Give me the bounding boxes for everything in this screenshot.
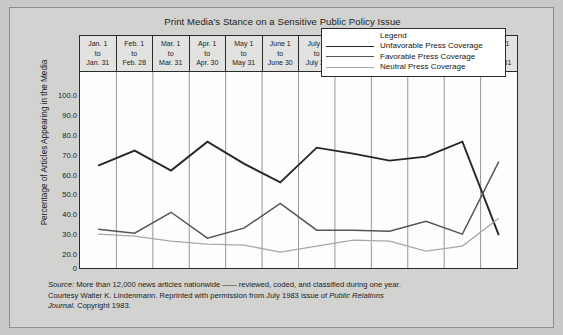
legend-label: Favorable Press Coverage	[380, 52, 475, 63]
month-line-3: Apr. 30	[196, 58, 218, 68]
month-line-1: June 1	[270, 39, 291, 49]
source-note: Source: More than 12,000 news articles n…	[48, 280, 543, 312]
publication-name-part1: Public Relations	[329, 291, 383, 300]
month-line-2: to	[204, 49, 210, 59]
month-column-6: June 1toJune 30	[263, 36, 300, 71]
month-column-2: Feb. 1toFeb. 28	[117, 36, 154, 71]
y-tick-90-0: 90.0	[41, 111, 77, 120]
month-line-2: to	[168, 49, 174, 59]
legend-label: Unfavorable Press Coverage	[380, 41, 483, 52]
month-line-2: to	[95, 49, 101, 59]
month-line-2: to	[131, 49, 137, 59]
source-text-b: reviewed, coded, and classified during o…	[237, 280, 401, 289]
month-line-1: Feb. 1	[124, 39, 144, 49]
y-tick-0: 0	[41, 264, 77, 273]
source-line-2: Courtesy Walter K. Lindenmann. Reprinted…	[48, 291, 543, 302]
source-text-a: More than 12,000 news articles nationwid…	[74, 280, 222, 289]
month-line-1: Mar. 1	[161, 39, 180, 49]
source-line-3: Journal. Copyright 1983.	[48, 301, 543, 312]
month-column-3: Mar. 1toMar. 31	[153, 36, 190, 71]
source-dash: ——	[222, 280, 236, 289]
chart-title: Print Media's Stance on a Sensitive Publ…	[10, 16, 555, 27]
month-line-1: May 1	[234, 39, 253, 49]
month-line-2: to	[314, 49, 320, 59]
legend-line-swatch-icon	[326, 56, 374, 57]
courtesy-text: Courtesy Walter K. Lindenmann. Reprinted…	[48, 291, 329, 300]
month-line-3: Jan. 31	[86, 58, 109, 68]
legend-line-swatch-icon	[326, 46, 374, 47]
legend-entry-unfavorable-press-coverage: Unfavorable Press Coverage	[326, 41, 501, 52]
legend-entry-favorable-press-coverage: Favorable Press Coverage	[326, 52, 501, 63]
plot-svg	[80, 72, 517, 268]
y-tick-70-0: 70.0	[41, 151, 77, 160]
month-line-3: Feb. 28	[122, 58, 146, 68]
legend-line-swatch-icon	[326, 67, 374, 68]
figure-container: Print Media's Stance on a Sensitive Publ…	[9, 7, 554, 328]
copyright-text: Copyright 1983.	[75, 301, 131, 310]
chart-legend: Legend Unfavorable Press CoverageFavorab…	[321, 28, 506, 77]
month-column-5: May 1toMay 31	[226, 36, 263, 71]
month-line-3: Mar. 31	[159, 58, 182, 68]
month-line-2: to	[277, 49, 283, 59]
source-label: Source:	[48, 280, 74, 289]
legend-entries: Unfavorable Press CoverageFavorable Pres…	[326, 41, 501, 73]
y-tick-30-0: 30.0	[41, 230, 77, 239]
y-tick-50-0: 50.0	[41, 190, 77, 199]
source-line-1: Source: More than 12,000 news articles n…	[48, 280, 543, 291]
y-tick-40-0: 40.0	[41, 210, 77, 219]
y-tick-80-0: 80.0	[41, 131, 77, 140]
month-line-1: Apr. 1	[198, 39, 216, 49]
month-line-1: Jan. 1	[88, 39, 107, 49]
publication-name-part2: Journal.	[48, 301, 75, 310]
month-line-2: to	[241, 49, 247, 59]
plot-area	[79, 72, 518, 269]
y-tick-60-0: 60.0	[41, 171, 77, 180]
legend-title: Legend	[380, 31, 501, 41]
legend-entry-neutral-press-coverage: Neutral Press Coverage	[326, 62, 501, 73]
y-tick-20-0: 20.0	[41, 250, 77, 259]
y-tick-100-0: 100.0	[41, 91, 77, 100]
legend-label: Neutral Press Coverage	[380, 62, 465, 73]
month-column-1: Jan. 1toJan. 31	[80, 36, 117, 71]
month-line-3: June 30	[268, 58, 293, 68]
month-column-4: Apr. 1toApr. 30	[190, 36, 227, 71]
month-line-3: May 31	[232, 58, 255, 68]
